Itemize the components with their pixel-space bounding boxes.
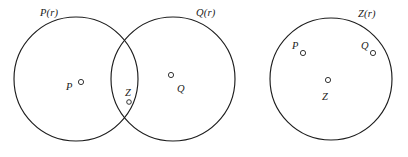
circle-p-outline [14,17,138,141]
left-diagram-group [14,17,235,141]
circle-z-outline [270,18,392,140]
set-label-z-of-r: Z(r) [358,9,376,20]
point-q-marker [168,72,173,77]
point-z-right-marker [325,77,330,82]
circle-q-outline [111,17,235,141]
point-p-right-marker [300,50,305,55]
set-label-q-of-r: Q(r) [196,8,215,19]
point-label-p-right: P [292,41,298,52]
figure-canvas [0,0,408,157]
point-q-right-marker [370,50,375,55]
set-label-p-of-r: P(r) [40,8,58,19]
point-label-q-right: Q [361,41,369,52]
point-label-z: Z [125,88,131,99]
point-label-p: P [66,82,72,93]
right-diagram-group [270,18,392,140]
venn-diagram-figure: P(r) Q(r) P Z Q Z(r) P Q Z [0,0,408,157]
point-label-q: Q [177,84,185,95]
point-label-z-right: Z [322,92,328,103]
point-p-marker [78,79,83,84]
point-z-marker [127,100,132,105]
